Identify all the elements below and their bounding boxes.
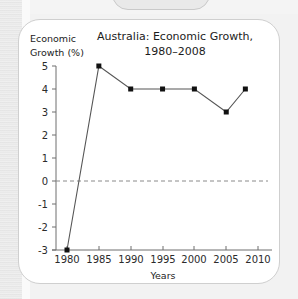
data-point-marker [128,87,133,92]
y-axis-tick-labels: 5 4 3 2 1 0 -1 -2 -3 [38,61,48,256]
x-tick-label: 2000 [181,254,206,265]
chart-title-line1: Australia: Economic Growth, [97,30,253,43]
y-tick-label: 1 [42,153,48,164]
series-line [67,66,245,250]
y-tick-label: -3 [38,245,48,256]
x-axis-label: Years [149,270,175,281]
y-tick-label: -2 [38,222,48,233]
chart-svg: Australia: Economic Growth, 1980–2008 Ec… [0,0,298,299]
data-point-marker [96,64,101,69]
x-tick-label: 1995 [150,254,175,265]
y-tick-label: 3 [42,107,48,118]
data-point-marker [192,87,197,92]
x-tick-label: 1990 [118,254,143,265]
data-point-marker [243,87,248,92]
series-markers [65,64,248,253]
data-point-marker [65,248,70,253]
y-tick-label: 0 [42,176,48,187]
data-point-marker [224,110,229,115]
y-tick-label: -1 [38,199,48,210]
screenshot-root: Australia: Economic Growth, 1980–2008 Ec… [0,0,298,299]
x-axis-tick-labels: 1980 1985 1990 1995 2000 2005 2010 [54,254,270,265]
x-tick-label: 2005 [213,254,238,265]
y-axis-ticks [52,66,56,250]
y-tick-label: 2 [42,130,48,141]
x-axis-ticks [67,246,258,250]
x-tick-label: 1980 [54,254,79,265]
data-point-marker [160,87,165,92]
y-axis-label-line2: Growth (%) [30,47,84,58]
chart-title-line2: 1980–2008 [144,45,206,58]
x-tick-label: 1985 [86,254,111,265]
economic-growth-line-chart: Australia: Economic Growth, 1980–2008 Ec… [0,0,298,299]
x-tick-label: 2010 [245,254,270,265]
y-tick-label: 5 [42,61,48,72]
y-tick-label: 4 [42,84,48,95]
y-axis-label-line1: Economic [30,33,76,44]
